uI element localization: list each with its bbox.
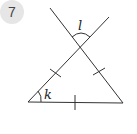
right-side-tick <box>93 68 105 75</box>
angle-k-arc <box>38 91 41 102</box>
angle-l-arc <box>72 33 90 37</box>
left-side-extended-line <box>28 17 109 102</box>
left-side-tick <box>50 69 61 77</box>
right-side-extended-line <box>50 8 123 103</box>
triangle-diagram: l k <box>0 0 137 134</box>
angle-k-label: k <box>44 87 52 102</box>
angle-l-label: l <box>78 18 82 33</box>
